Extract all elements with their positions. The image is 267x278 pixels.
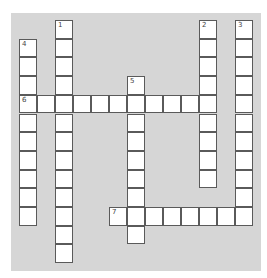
crossword-cell[interactable] bbox=[91, 95, 109, 114]
crossword-cell[interactable] bbox=[235, 188, 253, 207]
crossword-cell[interactable] bbox=[127, 207, 145, 226]
crossword-cell[interactable] bbox=[55, 151, 73, 170]
crossword-cell[interactable] bbox=[199, 151, 217, 170]
crossword-cell[interactable] bbox=[199, 39, 217, 58]
crossword-cell[interactable] bbox=[127, 95, 145, 114]
crossword-cell[interactable] bbox=[235, 151, 253, 170]
crossword-cell[interactable] bbox=[55, 226, 73, 245]
crossword-cell[interactable] bbox=[217, 207, 235, 226]
crossword-cell[interactable]: 7 bbox=[109, 207, 127, 226]
crossword-cell[interactable] bbox=[19, 76, 37, 95]
crossword-cell[interactable] bbox=[235, 132, 253, 151]
crossword-cell[interactable]: 3 bbox=[235, 20, 253, 39]
crossword-cell[interactable] bbox=[19, 170, 37, 189]
crossword-cell[interactable] bbox=[127, 170, 145, 189]
crossword-cell[interactable] bbox=[127, 226, 145, 245]
clue-number: 3 bbox=[238, 22, 242, 29]
crossword-cell[interactable] bbox=[55, 57, 73, 76]
crossword-cell[interactable] bbox=[55, 170, 73, 189]
crossword-cell[interactable] bbox=[181, 95, 199, 114]
crossword-cell[interactable]: 2 bbox=[199, 20, 217, 39]
crossword-cell[interactable]: 4 bbox=[19, 39, 37, 58]
crossword-cell[interactable] bbox=[235, 57, 253, 76]
crossword-cell[interactable] bbox=[55, 39, 73, 58]
crossword-cell[interactable] bbox=[19, 132, 37, 151]
crossword-cell[interactable] bbox=[127, 114, 145, 133]
crossword-cell[interactable] bbox=[199, 114, 217, 133]
crossword-cell[interactable] bbox=[19, 188, 37, 207]
crossword-cell[interactable] bbox=[199, 132, 217, 151]
crossword-cell[interactable] bbox=[199, 95, 217, 114]
crossword-cell[interactable] bbox=[55, 244, 73, 263]
crossword-cell[interactable] bbox=[181, 207, 199, 226]
crossword-cell[interactable] bbox=[145, 95, 163, 114]
clue-number: 1 bbox=[58, 22, 62, 29]
crossword-cell[interactable] bbox=[55, 95, 73, 114]
crossword-cell[interactable] bbox=[235, 170, 253, 189]
crossword-cell[interactable] bbox=[145, 207, 163, 226]
clue-number: 5 bbox=[130, 78, 134, 85]
crossword-cell[interactable] bbox=[127, 188, 145, 207]
crossword-cell[interactable] bbox=[55, 188, 73, 207]
crossword-cell[interactable] bbox=[235, 95, 253, 114]
crossword-cell[interactable] bbox=[127, 151, 145, 170]
crossword-cell[interactable] bbox=[55, 76, 73, 95]
crossword-cell[interactable] bbox=[199, 170, 217, 189]
crossword-cell[interactable] bbox=[199, 76, 217, 95]
crossword-cell[interactable] bbox=[235, 39, 253, 58]
crossword-board: 1234657 bbox=[11, 13, 261, 271]
crossword-cell[interactable] bbox=[55, 207, 73, 226]
crossword-cell[interactable]: 1 bbox=[55, 20, 73, 39]
crossword-cell[interactable] bbox=[199, 57, 217, 76]
clue-number: 4 bbox=[22, 41, 26, 48]
crossword-cell[interactable] bbox=[235, 76, 253, 95]
crossword-cell[interactable]: 5 bbox=[127, 76, 145, 95]
crossword-cell[interactable] bbox=[199, 207, 217, 226]
crossword-cell[interactable] bbox=[73, 95, 91, 114]
crossword-cell[interactable] bbox=[55, 114, 73, 133]
crossword-cell[interactable] bbox=[55, 132, 73, 151]
crossword-cell[interactable] bbox=[127, 132, 145, 151]
crossword-cell[interactable] bbox=[163, 207, 181, 226]
clue-number: 2 bbox=[202, 22, 206, 29]
crossword-cell[interactable]: 6 bbox=[19, 95, 37, 114]
clue-number: 6 bbox=[22, 97, 26, 104]
crossword-cell[interactable] bbox=[163, 95, 181, 114]
crossword-cell[interactable] bbox=[19, 151, 37, 170]
crossword-cell[interactable] bbox=[235, 114, 253, 133]
clue-number: 7 bbox=[112, 209, 116, 216]
crossword-cell[interactable] bbox=[19, 114, 37, 133]
crossword-cell[interactable] bbox=[235, 207, 253, 226]
crossword-cell[interactable] bbox=[19, 57, 37, 76]
crossword-cell[interactable] bbox=[109, 95, 127, 114]
crossword-cell[interactable] bbox=[19, 207, 37, 226]
crossword-cell[interactable] bbox=[37, 95, 55, 114]
